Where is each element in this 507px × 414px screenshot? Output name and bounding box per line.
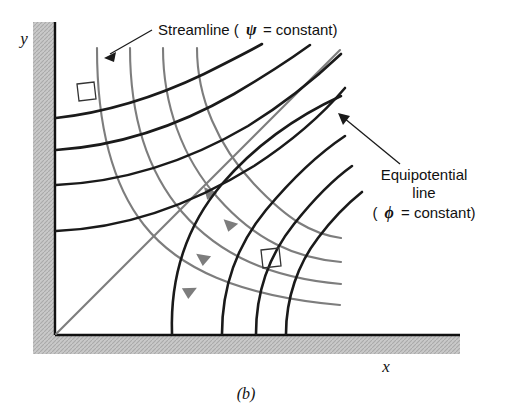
- vertical-wall-hatch: [33, 22, 55, 335]
- equipotential-line3-prefix: (: [372, 204, 377, 221]
- equipotential-2: [56, 45, 310, 150]
- equipotential-1: [56, 44, 262, 118]
- flow-net-svg: Streamline ( ψ = constant) Equipotential…: [0, 0, 507, 414]
- streamline-symbol-psi: ψ: [246, 21, 257, 39]
- flow-arrow-icon-4: [182, 288, 197, 300]
- flow-net-figure: Streamline ( ψ = constant) Equipotential…: [0, 0, 507, 414]
- equipotential-annotation-line3: ( ϕ = constant): [372, 204, 475, 222]
- equipotential-group: [56, 44, 362, 334]
- x-axis-label: x: [381, 357, 390, 376]
- equipotential-8: [286, 192, 362, 334]
- equipotential-symbol-phi: ϕ: [385, 204, 394, 222]
- equipotential-leader-line: [344, 118, 400, 164]
- flow-arrow-icon-2: [222, 219, 238, 233]
- figure-caption: (b): [237, 385, 256, 403]
- streamline-annotation-prefix: Streamline (: [158, 21, 239, 38]
- equipotential-leader-arrow-icon: [338, 113, 350, 125]
- streamline-annotation: Streamline ( ψ = constant): [158, 21, 338, 39]
- equipotential-5: [172, 96, 341, 334]
- equipotential-7: [256, 166, 352, 334]
- streamline-annotation-suffix: = constant): [263, 21, 338, 38]
- y-axis-label: y: [18, 29, 28, 48]
- right-angle-marker-2: [261, 248, 281, 268]
- flow-arrow-icon-3: [196, 254, 211, 267]
- equipotential-annotation-line1: Equipotential: [381, 166, 468, 183]
- right-angle-marker-1: [77, 82, 96, 101]
- equipotential-annotation-line2: line: [412, 184, 435, 201]
- equipotential-line3-suffix: = constant): [401, 204, 476, 221]
- horizontal-wall-hatch: [33, 335, 460, 354]
